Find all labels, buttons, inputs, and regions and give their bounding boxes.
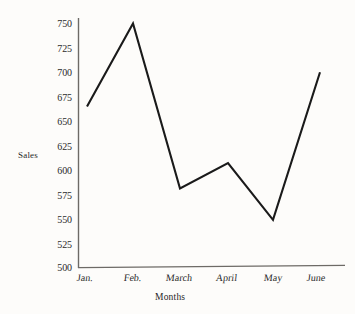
y-tick-label: 725 xyxy=(42,43,72,54)
sales-line-series xyxy=(87,24,320,220)
y-tick-label: 550 xyxy=(42,214,72,225)
y-tick-label: 525 xyxy=(42,239,72,250)
x-tick-label: March xyxy=(165,272,192,283)
x-tick-label: May xyxy=(263,272,283,283)
x-tick-label: Jan. xyxy=(76,272,93,283)
line-chart: 750 725 700 675 650 625 600 575 550 525 … xyxy=(0,0,355,314)
y-axis-title: Sales xyxy=(6,150,50,160)
x-tick-label: April xyxy=(215,272,237,283)
y-tick-label: 500 xyxy=(42,262,72,273)
x-tick-label: June xyxy=(306,272,326,283)
y-tick-label: 650 xyxy=(42,116,72,127)
y-tick-label: 750 xyxy=(42,18,72,29)
x-tick-label: Feb. xyxy=(123,272,142,283)
y-tick-label: 575 xyxy=(42,190,72,201)
x-axis-title: Months xyxy=(155,292,185,302)
y-tick-label: 600 xyxy=(42,165,72,176)
x-axis-line xyxy=(78,265,345,267)
y-tick-label: 700 xyxy=(42,67,72,78)
y-tick-label: 675 xyxy=(42,92,72,103)
